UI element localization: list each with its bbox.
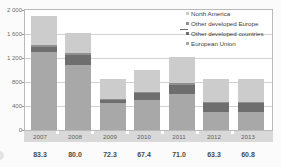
bar-segment	[169, 85, 195, 95]
y-tick-label: 2 000	[7, 7, 22, 13]
legend-label: European Union	[191, 40, 236, 47]
stacked-bar-chart: 2 000 1 600 1 200 800 400 0	[0, 0, 281, 167]
bar-segment	[203, 112, 229, 130]
bar-segment	[134, 93, 160, 100]
footer-values-row: 83.3 80.0 72.3 67.4 71.0 63.3 60.8	[0, 145, 281, 167]
legend-item-other-developed-countries[interactable]: Other developed countries	[186, 29, 274, 38]
bar-segment	[203, 103, 229, 112]
bar-2010[interactable]	[134, 70, 160, 130]
x-tick-gap	[91, 131, 94, 134]
bar-2008[interactable]	[65, 33, 91, 130]
legend-item-other-developed-europe[interactable]: Other developed Europe	[186, 19, 274, 28]
footer-value-2008: 80.0	[60, 150, 90, 159]
bar-segment	[134, 100, 160, 130]
bar-segment	[203, 79, 229, 101]
x-tick-gap	[56, 131, 59, 134]
bar-segment	[238, 112, 264, 130]
legend-swatch-icon	[186, 12, 189, 15]
x-label-2007: 2007	[25, 133, 55, 141]
bar-segment	[31, 52, 57, 130]
legend-swatch-icon	[186, 42, 189, 45]
legend-swatch-icon	[186, 32, 189, 35]
legend-swatch-icon	[186, 22, 189, 25]
x-label-2010: 2010	[129, 133, 159, 141]
legend-item-european-union[interactable]: European Union	[186, 39, 274, 48]
legend-leader-line	[180, 29, 188, 30]
bar-segment	[65, 33, 91, 53]
y-tick-label: 400	[12, 103, 22, 109]
y-tick-label: 1 600	[7, 31, 22, 37]
footer-value-2011: 71.0	[164, 150, 194, 159]
bar-2011[interactable]	[169, 57, 195, 130]
bar-segment	[65, 65, 91, 130]
bar-2013[interactable]	[238, 79, 264, 130]
x-label-2013: 2013	[233, 133, 263, 141]
bar-segment	[31, 16, 57, 45]
footer-value-2009: 72.3	[95, 150, 125, 159]
row-marker-icon	[0, 151, 4, 160]
y-tick-label: 800	[12, 79, 22, 85]
legend-label: Other developed countries	[191, 30, 264, 37]
bar-segment	[169, 57, 195, 84]
x-label-2011: 2011	[164, 133, 194, 141]
legend-item-north-america[interactable]: North America	[186, 9, 274, 18]
bar-segment	[238, 79, 264, 103]
bar-segment	[65, 55, 91, 65]
bar-segment	[134, 70, 160, 92]
legend: North America Other developed Europe Oth…	[186, 9, 274, 49]
footer-value-2010: 67.4	[129, 150, 159, 159]
bar-segment	[100, 79, 126, 98]
bar-segment	[169, 94, 195, 130]
y-axis: 2 000 1 600 1 200 800 400 0	[0, 0, 24, 131]
bar-2009[interactable]	[100, 79, 126, 130]
x-label-2012: 2012	[199, 133, 229, 141]
footer-value-2013: 60.8	[233, 150, 263, 159]
x-label-2008: 2008	[60, 133, 90, 141]
bar-segment	[100, 103, 126, 130]
footer-value-2012: 63.3	[199, 150, 229, 159]
legend-label: Other developed Europe	[191, 20, 258, 27]
footer-value-2007: 83.3	[25, 150, 55, 159]
bar-2012[interactable]	[203, 79, 229, 130]
y-tick-label: 1 200	[7, 55, 22, 61]
x-label-2009: 2009	[95, 133, 125, 141]
bar-segment	[238, 103, 264, 112]
legend-label: North America	[191, 10, 230, 17]
bar-2007[interactable]	[31, 16, 57, 130]
